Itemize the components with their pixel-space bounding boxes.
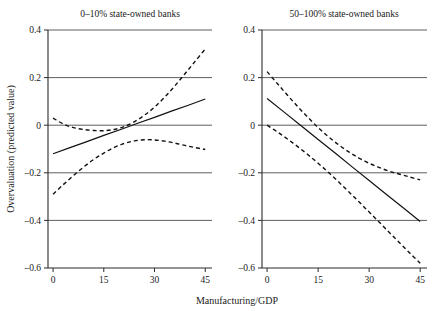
panel-right-ytick-label-2: 0 [250, 121, 255, 131]
panel-left: 0–10% state-owned banks 0.40.20–0.2–0.4–… [23, 9, 212, 285]
panel-left-ytick-label-5: –0.6 [23, 263, 41, 273]
panel-left-xtick-label-1: 15 [99, 275, 109, 285]
panel-right-ytick-label-3: –0.2 [237, 168, 255, 178]
panel-right-ytick-label-4: –0.4 [237, 216, 255, 226]
panel-right-y-tick-labels: 0.40.20–0.2–0.4–0.6 [237, 25, 255, 273]
panel-right-xtick-label-1: 15 [313, 275, 323, 285]
panel-left-tickmarks [44, 30, 205, 272]
panel-right-axes [262, 30, 427, 268]
panel-left-ytick-label-1: 0.2 [29, 73, 41, 83]
panel-left-ytick-label-2: 0 [36, 121, 41, 131]
panel-left-x-tick-labels: 0153045 [51, 275, 211, 285]
panel-left-y-tick-labels: 0.40.20–0.2–0.4–0.6 [23, 25, 41, 273]
panel-left-xtick-label-2: 30 [150, 275, 160, 285]
panel-right-ytick-label-0: 0.4 [243, 25, 255, 35]
panel-right-series [267, 72, 420, 264]
panel-right: 50–100% state-owned banks 0.40.20–0.2–0.… [237, 9, 427, 285]
panel-right-title: 50–100% state-owned banks [289, 9, 399, 19]
panel-right-series-ci-2 [267, 125, 420, 263]
panel-right-gridlines [262, 30, 427, 220]
panel-left-series-ci-2 [53, 140, 205, 195]
x-axis-title: Manufacturing/GDP [196, 295, 279, 306]
panel-right-xtick-label-3: 45 [415, 275, 425, 285]
panel-right-xtick-label-0: 0 [265, 275, 270, 285]
panel-left-xtick-label-3: 45 [200, 275, 210, 285]
panel-left-gridlines [48, 30, 212, 220]
panel-left-ytick-label-3: –0.2 [23, 168, 41, 178]
panel-right-x-tick-labels: 0153045 [265, 275, 425, 285]
panel-left-axes [48, 30, 212, 268]
panel-right-series-ci-1 [267, 72, 420, 180]
panel-right-xtick-label-2: 30 [364, 275, 374, 285]
panel-left-series-ci-1 [53, 49, 205, 131]
panel-right-ytick-label-1: 0.2 [243, 73, 255, 83]
panel-right-tickmarks [258, 30, 420, 272]
two-panel-line-chart: Overvaluation (predicted value) Manufact… [0, 0, 438, 311]
panel-left-title: 0–10% state-owned banks [80, 9, 180, 19]
panel-right-series-fit [267, 99, 420, 222]
panel-right-ytick-label-5: –0.6 [237, 263, 255, 273]
panel-left-ytick-label-4: –0.4 [23, 216, 41, 226]
panel-left-xtick-label-0: 0 [51, 275, 56, 285]
panel-left-ytick-label-0: 0.4 [29, 25, 41, 35]
figure-container: Overvaluation (predicted value) Manufact… [0, 0, 438, 311]
y-axis-title: Overvaluation (predicted value) [5, 85, 17, 213]
